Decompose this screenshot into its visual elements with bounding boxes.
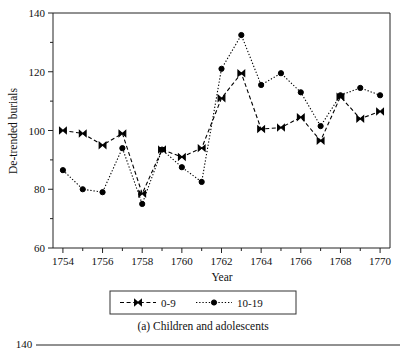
data-point: [140, 201, 145, 206]
x-axis-title: Year: [211, 271, 232, 283]
data-point: [278, 125, 285, 131]
data-point: [238, 70, 245, 76]
data-point: [159, 147, 164, 152]
data-point: [119, 130, 126, 136]
data-point: [377, 93, 382, 98]
x-tick-label: 1758: [131, 255, 154, 267]
series-line-0-9: [63, 73, 380, 193]
x-tick-label: 1764: [250, 255, 273, 267]
data-point: [60, 168, 65, 173]
y-tick-label: 120: [29, 66, 46, 78]
figure-children-and-adolescents: 6080100120140 17541756175817601762176417…: [0, 0, 407, 349]
next-figure-partial: 140: [16, 338, 400, 349]
next-figure-ylabel: 140: [16, 338, 33, 349]
y-tick-label: 100: [29, 125, 46, 137]
data-point: [377, 108, 384, 114]
legend-label-0-9: 0-9: [161, 297, 176, 309]
data-point: [80, 187, 85, 192]
chart-legend: 0-910-19: [110, 291, 296, 314]
x-tick-label: 1762: [211, 255, 233, 267]
data-point: [178, 154, 185, 160]
data-point: [139, 191, 146, 197]
x-tick-label: 1768: [329, 255, 352, 267]
figure-caption: (a) Children and adolescents: [137, 320, 269, 333]
x-tick-label: 1760: [171, 255, 194, 267]
x-tick-label: 1754: [52, 255, 75, 267]
x-tick-label: 1766: [290, 255, 313, 267]
plot-frame: [53, 13, 390, 248]
x-tick-label: 1756: [92, 255, 115, 267]
legend-marker-10-19: [211, 300, 216, 305]
data-point: [298, 90, 303, 95]
data-point: [357, 116, 364, 122]
y-axis-ticks: 6080100120140: [29, 7, 54, 254]
data-point: [318, 123, 323, 128]
x-axis-ticks: 175417561758176017621764176617681770: [52, 248, 392, 267]
data-point: [358, 85, 363, 90]
data-point: [258, 126, 265, 132]
series-line-10-19: [63, 35, 380, 204]
detrended-burials-line-chart: 6080100120140 17541756175817601762176417…: [0, 0, 407, 349]
data-point: [99, 142, 106, 148]
data-series-group: [60, 32, 384, 206]
data-point: [338, 93, 343, 98]
data-point: [79, 130, 86, 136]
y-axis-title: De-trended burials: [7, 88, 19, 174]
data-point: [239, 32, 244, 37]
data-point: [199, 179, 204, 184]
legend-label-10-19: 10-19: [237, 297, 263, 309]
y-tick-label: 80: [34, 183, 46, 195]
data-point: [60, 128, 67, 134]
data-point: [179, 165, 184, 170]
series-10-19: [60, 32, 382, 206]
data-point: [278, 71, 283, 76]
data-point: [219, 66, 224, 71]
data-point: [297, 114, 304, 120]
data-point: [317, 138, 324, 144]
data-point: [259, 82, 264, 87]
data-point: [218, 95, 225, 101]
y-tick-label: 140: [29, 7, 46, 19]
series-0-9: [60, 70, 384, 196]
x-tick-label: 1770: [369, 255, 392, 267]
data-point: [198, 145, 205, 151]
y-tick-label: 60: [34, 242, 46, 254]
data-point: [120, 146, 125, 151]
data-point: [100, 190, 105, 195]
